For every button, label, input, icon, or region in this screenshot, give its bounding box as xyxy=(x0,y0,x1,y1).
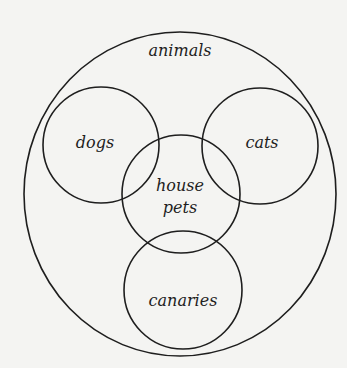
dogs-label: dogs xyxy=(76,133,114,152)
house-label: house xyxy=(156,176,204,195)
animals-label: animals xyxy=(149,41,212,60)
canaries-circle xyxy=(124,231,242,349)
pets-label: pets xyxy=(163,198,197,217)
canaries-label: canaries xyxy=(149,291,218,310)
venn-diagram: animals dogs cats house pets canaries xyxy=(0,0,347,368)
cats-label: cats xyxy=(245,133,278,152)
